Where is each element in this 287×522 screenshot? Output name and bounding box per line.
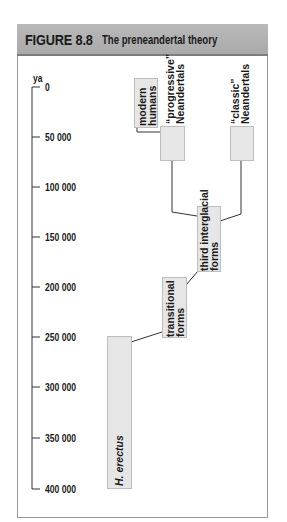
node-third-interglacial-forms: third interglacial forms — [197, 206, 221, 272]
node-modern-humans: modern humans — [134, 78, 158, 128]
node-label-classic-neandertals: “classic” Neandertals — [230, 60, 250, 124]
tick-label-200000: 200 000 — [45, 281, 76, 293]
node-h-erectus: H. erectus — [107, 336, 132, 489]
node-label-modern-humans: modern humans — [137, 82, 157, 126]
tick-label-250000: 250 000 — [45, 331, 76, 343]
node-label-progressive-neandertals: “progressive” Neandertals — [165, 60, 185, 124]
node-label-third-interglacial: third interglacial forms — [199, 209, 219, 271]
node-label-h-erectus: H. erectus — [114, 339, 124, 486]
tick-label-0: 0 — [45, 81, 50, 93]
node-label-transitional: transitional forms — [165, 280, 185, 337]
tick-label-400000: 400 000 — [45, 483, 76, 495]
tick-label-100000: 100 000 — [45, 181, 76, 193]
node-transitional-forms: transitional forms — [162, 277, 187, 338]
node-classic-neandertals — [230, 126, 254, 161]
tick-label-350000: 350 000 — [45, 432, 76, 444]
tick-label-150000: 150 000 — [45, 231, 76, 243]
node-progressive-neandertals — [160, 126, 185, 161]
tick-label-50000: 50 000 — [45, 131, 71, 143]
tick-label-300000: 300 000 — [45, 381, 76, 393]
